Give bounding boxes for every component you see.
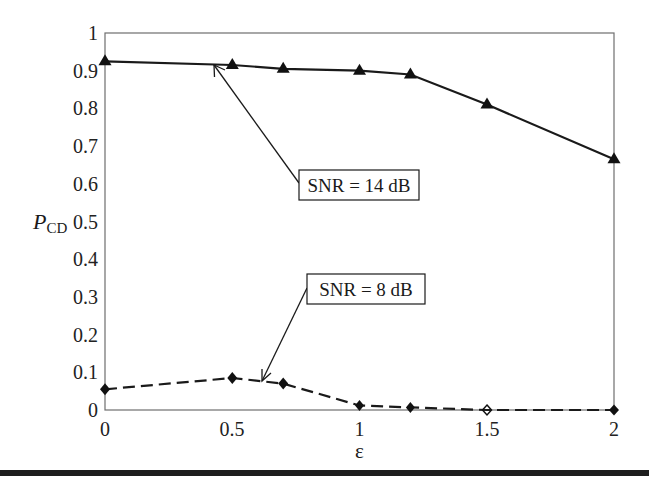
y-axis-ticks: 0 0.1 0.2 0.3 0.4 0.5 0.6 0.7 0.8 0.9 1 (73, 22, 98, 421)
plot-area-frame (105, 33, 614, 410)
bottom-rule-divider (0, 470, 649, 476)
y-axis-title: PCD (32, 209, 67, 236)
y-tick-0-1: 0.1 (73, 361, 98, 383)
annotation-snr-14db: SNR = 14 dB (214, 65, 419, 200)
triangle-marker-icon (404, 68, 417, 79)
annotation-label-8db: SNR = 8 dB (319, 279, 413, 300)
series-snr-14db (99, 54, 621, 163)
y-axis-title-main: P (32, 209, 46, 234)
x-tick-1: 1 (355, 418, 365, 440)
x-tick-0: 0 (100, 418, 110, 440)
x-axis-ticks: 0 0.5 1 1.5 2 (100, 418, 619, 440)
x-tick-2: 2 (609, 418, 619, 440)
diamond-marker-icon (355, 400, 364, 411)
y-tick-0-8: 0.8 (73, 97, 98, 119)
x-tick-0-5: 0.5 (220, 418, 245, 440)
line-chart: 0 0.1 0.2 0.3 0.4 0.5 0.6 0.7 0.8 0.9 1 … (0, 0, 649, 482)
series-snr-8db (100, 372, 619, 416)
y-axis-title-subscript: CD (46, 220, 67, 236)
y-tick-0-7: 0.7 (73, 135, 98, 157)
diamond-marker-icon (100, 383, 110, 395)
annotation-arrow-line (214, 65, 299, 183)
diamond-marker-icon (406, 402, 415, 413)
annotation-snr-8db: SNR = 8 dB (262, 274, 425, 381)
y-tick-0-3: 0.3 (73, 286, 98, 308)
y-tick-0-9: 0.9 (73, 60, 98, 82)
annotation-label-14db: SNR = 14 dB (307, 175, 410, 196)
diamond-marker-icon (278, 378, 288, 390)
series-snr-14db-line (105, 61, 614, 159)
triangle-marker-icon (353, 64, 366, 75)
diamond-marker-icon (609, 405, 619, 416)
triangle-marker-icon (277, 62, 290, 73)
y-tick-0-6: 0.6 (73, 173, 98, 195)
diamond-marker-icon (227, 372, 237, 384)
triangle-marker-icon (226, 58, 239, 69)
triangle-marker-icon (99, 54, 112, 65)
x-axis-title: ε (355, 439, 364, 463)
y-tick-0-5: 0.5 (73, 211, 98, 233)
y-tick-0-2: 0.2 (73, 324, 98, 346)
y-tick-1: 1 (88, 22, 98, 44)
x-tick-1-5: 1.5 (475, 418, 500, 440)
y-tick-0-4: 0.4 (73, 248, 98, 270)
y-tick-0: 0 (88, 399, 98, 421)
annotation-arrow-line (262, 288, 307, 381)
